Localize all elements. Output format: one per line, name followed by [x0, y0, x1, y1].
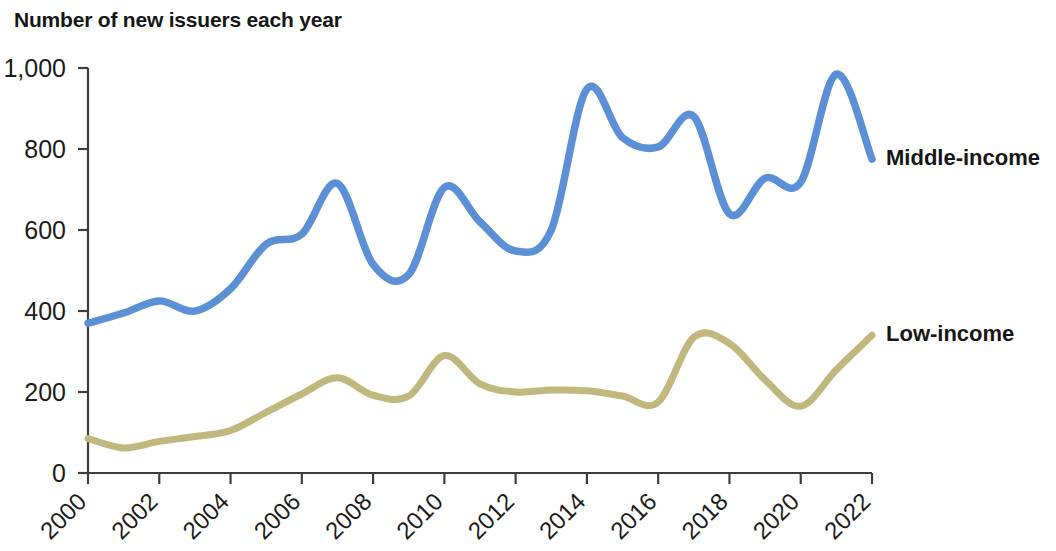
x-axis-tick-label: 2008	[320, 487, 377, 544]
x-axis-tick-labels: 2000200220042006200820102012201420162018…	[35, 487, 876, 544]
series-label-low-income: Low-income	[886, 321, 1014, 346]
x-axis-tick-label: 2014	[534, 487, 591, 544]
series-inline-legend: Middle-incomeLow-income	[886, 145, 1040, 346]
y-axis-tick-label: 600	[24, 216, 66, 244]
y-axis-tick-marks	[78, 68, 88, 473]
y-axis-tick-label: 1,000	[3, 54, 66, 82]
x-axis-tick-label: 2012	[462, 487, 519, 544]
y-axis-tick-labels: 02004006008001,000	[3, 54, 66, 487]
chart-container: Number of new issuers each year 02004006…	[0, 0, 1056, 551]
series-line-middle-income	[88, 74, 872, 323]
line-chart-plot: 02004006008001,000 200020022004200620082…	[0, 0, 1056, 551]
x-axis-tick-label: 2004	[177, 487, 234, 544]
series-label-middle-income: Middle-income	[886, 145, 1040, 170]
x-axis-tick-label: 2010	[391, 487, 448, 544]
x-axis-tick-label: 2000	[35, 487, 92, 544]
y-axis-tick-label: 800	[24, 135, 66, 163]
data-series-group	[88, 74, 872, 448]
y-axis-tick-label: 400	[24, 297, 66, 325]
x-axis-tick-label: 2016	[605, 487, 662, 544]
y-axis-tick-label: 200	[24, 378, 66, 406]
series-line-low-income	[88, 333, 872, 448]
x-axis-tick-label: 2020	[747, 487, 804, 544]
x-axis-tick-label: 2006	[249, 487, 306, 544]
y-axis-tick-label: 0	[52, 459, 66, 487]
x-axis-tick-label: 2018	[676, 487, 733, 544]
x-axis-tick-label: 2002	[106, 487, 163, 544]
x-axis-tick-marks	[88, 473, 872, 484]
x-axis-tick-label: 2022	[819, 487, 876, 544]
